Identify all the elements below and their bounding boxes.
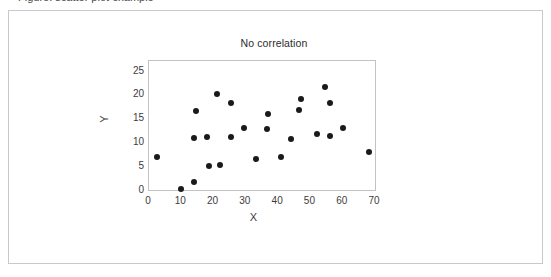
y-axis-tick-label: 5 (118, 160, 144, 171)
x-axis-tick-label: 0 (133, 195, 163, 206)
data-point (253, 156, 259, 162)
clipped-caption-text: Figure: scatter plot example (18, 0, 154, 3)
data-point (298, 96, 304, 102)
x-axis-title: X (148, 211, 359, 223)
data-point (178, 186, 184, 192)
data-point (327, 100, 333, 106)
data-point (214, 91, 220, 97)
y-axis-title: Y (98, 115, 110, 122)
data-point (204, 134, 210, 140)
data-point (264, 126, 270, 132)
data-point (228, 134, 234, 140)
x-axis-tick-label: 10 (165, 195, 195, 206)
y-axis-tick-label: 15 (118, 112, 144, 123)
data-point (322, 84, 328, 90)
data-point (265, 111, 271, 117)
x-axis-tick-label: 50 (294, 195, 324, 206)
data-point (340, 125, 346, 131)
x-axis-tick-labels: 010203040506070 (148, 195, 378, 209)
x-axis-tick-label: 30 (230, 195, 260, 206)
data-point (241, 125, 247, 131)
chart-title: No correlation (4, 37, 544, 49)
data-point (288, 136, 294, 142)
data-point (366, 149, 372, 155)
data-point (327, 133, 333, 139)
x-axis-tick-label: 20 (198, 195, 228, 206)
data-point (217, 162, 223, 168)
scatter-chart: No correlation 0510152025 Y 010203040506… (9, 11, 544, 265)
data-point (206, 163, 212, 169)
data-point (191, 135, 197, 141)
clipped-caption-strip: Figure: scatter plot example (0, 0, 551, 7)
plot-area (148, 60, 376, 191)
data-point (154, 154, 160, 160)
x-axis-tick-label: 60 (327, 195, 357, 206)
data-point (296, 107, 302, 113)
data-point (193, 108, 199, 114)
y-axis-tick-labels: 0510152025 (114, 60, 144, 191)
y-axis-tick-label: 20 (118, 88, 144, 99)
x-axis-tick-label: 40 (262, 195, 292, 206)
data-point (228, 100, 234, 106)
data-point (191, 179, 197, 185)
y-axis-tick-label: 10 (118, 136, 144, 147)
x-axis-tick-label: 70 (359, 195, 389, 206)
chart-card: No correlation 0510152025 Y 010203040506… (8, 10, 543, 264)
y-axis-tick-label: 0 (118, 184, 144, 195)
y-axis-tick-label: 25 (118, 64, 144, 75)
data-point (278, 154, 284, 160)
data-point (314, 131, 320, 137)
